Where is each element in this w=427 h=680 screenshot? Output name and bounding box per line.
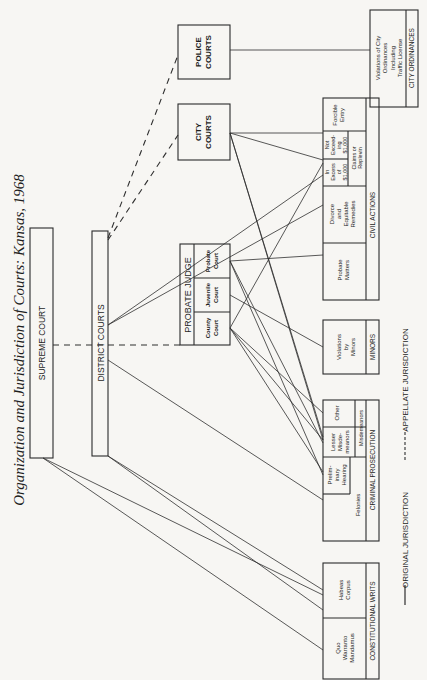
preliminary-3: Hearing: [341, 464, 347, 485]
city-ordinances-box: Violations of City Ordinances Including …: [370, 10, 418, 107]
probate-matters-2: Matters: [344, 260, 350, 280]
constitutional-writs-box: Habeas Corpus Quo Warranto Mandamus CONS…: [323, 563, 379, 679]
felonies-label: Felonies: [355, 494, 361, 517]
quo-2: Warranto: [342, 635, 348, 660]
probate-matters-1: Probate: [337, 259, 343, 281]
probate-judge-header: PROBATE JUDGE: [183, 257, 193, 332]
in-excess-4: $1,000: [342, 164, 348, 181]
diagram-title: Organization and Jurisdiction of Courts:…: [11, 174, 27, 506]
city-ordinances-item-4: Traffic License: [397, 38, 403, 77]
supreme-court-label: SUPREME COURT: [37, 306, 47, 380]
minors-item-3: Minors: [350, 338, 356, 356]
minors-item-1: Violations: [336, 334, 342, 360]
juvenile-court-label-1: Juvenile: [205, 282, 211, 307]
quo-1: Quo: [335, 642, 341, 654]
civil-actions-label: CIVIL ACTIONS: [369, 191, 376, 238]
city-ordinances-item-1: Violations of City: [375, 36, 381, 81]
lesser-2: Misde-: [337, 433, 343, 451]
probate-judge-box: PROBATE JUDGE County Court Juvenile Cour…: [180, 244, 230, 345]
divorce-1: Divorce: [329, 203, 335, 224]
city-courts-box: CITY COURTS: [178, 104, 230, 160]
criminal-prosecution-box: Other Lesser Misde- meanors Misdemeanors…: [323, 400, 379, 541]
district-courts-box: DISTRICT COURTS: [92, 231, 108, 456]
preliminary-1: Prelim-: [327, 465, 333, 484]
forcible-entry-1: Forcible: [332, 104, 338, 126]
divorce-3: Equitable: [343, 201, 349, 227]
misdemeanors-label: Misdemeanors: [358, 410, 364, 446]
civil-actions-box: Forcible Entry Not Exceed- ing $1,000 In…: [323, 98, 379, 300]
lesser-1: Lesser: [330, 433, 336, 451]
city-ordinances-item-2: Ordinances: [382, 43, 388, 74]
minors-box: Violations by Minors MINORS: [323, 320, 379, 374]
appellate-lines: [53, 55, 180, 345]
claims-2: Replevin: [357, 147, 363, 168]
habeas-2: Corpus: [345, 580, 351, 599]
quo-3: Mandamus: [349, 633, 355, 663]
preliminary-2: inary: [334, 468, 340, 481]
county-court-label-2: Court: [213, 320, 219, 336]
city-courts-label-1: CITY: [194, 122, 203, 141]
county-court-label-1: County: [205, 317, 211, 338]
divorce-2: and: [336, 209, 342, 219]
police-courts-label-1: POLICE: [194, 36, 203, 66]
legend-original: ORIGINAL JURISDICTION: [401, 492, 410, 588]
not-exceeding-4: $1,000: [342, 137, 348, 154]
legend-appellate: APPELLATE JURISDICTION: [401, 328, 410, 432]
lesser-3: meanors: [344, 430, 350, 453]
city-courts-label-2: COURTS: [204, 114, 213, 148]
district-courts-label: DISTRICT COURTS: [96, 304, 106, 381]
legend: ORIGINAL JURISDICTION APPELLATE JURISDIC…: [401, 328, 410, 605]
police-courts-box: POLICE COURTS: [178, 25, 230, 79]
constitutional-writs-label: CONSTITUTIONAL WRITS: [369, 581, 376, 661]
police-courts-label-2: COURTS: [204, 34, 213, 68]
minors-item-2: by: [343, 344, 349, 350]
other-label: Other: [334, 405, 340, 420]
city-ordinances-item-3: Including: [390, 46, 396, 70]
juvenile-court-label-2: Court: [213, 287, 219, 303]
city-ordinances-label: CITY ORDINANCES: [408, 27, 415, 87]
court-organization-diagram: Organization and Jurisdiction of Courts:…: [0, 0, 427, 680]
forcible-entry-2: Entry: [339, 108, 345, 122]
supreme-court-box: SUPREME COURT: [30, 228, 53, 458]
criminal-prosecution-label: CRIMINAL PROSECUTION: [369, 430, 376, 511]
minors-label: MINORS: [369, 333, 376, 360]
probate-court-label-1: Probate: [205, 249, 211, 272]
probate-court-label-2: Court: [213, 253, 219, 269]
habeas-1: Habeas: [338, 580, 344, 601]
divorce-4: Remedies: [350, 200, 356, 227]
